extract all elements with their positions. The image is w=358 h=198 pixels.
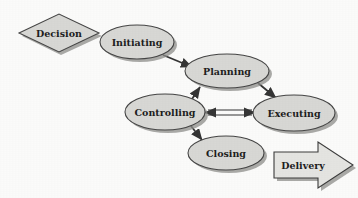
node-executing[interactable]: Executing [253,95,338,134]
delivery-label: Delivery [281,160,325,171]
planning-label: Planning [203,66,251,77]
node-decision[interactable]: Decision [19,14,102,55]
node-initiating[interactable]: Initiating [100,25,177,62]
diagram-svg: Decision Initiating Planning Controlling… [0,0,358,198]
node-closing[interactable]: Closing [188,136,267,173]
closing-label: Closing [206,148,246,159]
executing-label: Executing [267,108,321,119]
connector-controlling-to-planning [192,87,200,99]
node-controlling[interactable]: Controlling [125,94,208,133]
decision-label: Decision [36,28,82,39]
connector-controlling-executing-bidirectional [205,110,255,115]
initiating-label: Initiating [112,37,163,48]
controlling-label: Controlling [135,107,196,118]
diagram-canvas: Decision Initiating Planning Controlling… [0,0,358,198]
node-delivery[interactable]: Delivery [274,142,356,191]
node-planning[interactable]: Planning [185,54,272,91]
